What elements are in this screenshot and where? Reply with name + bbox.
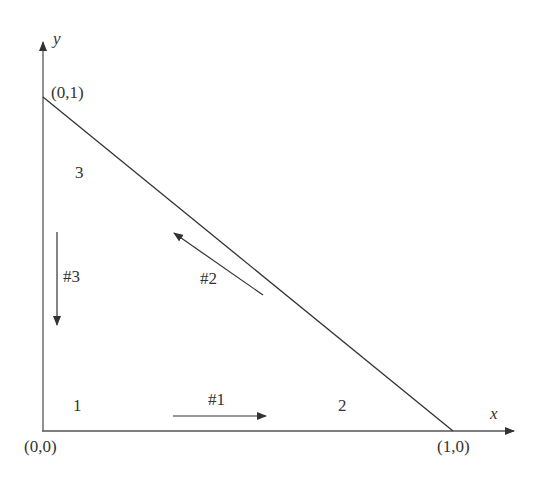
vertex-1-coord-label: (0,0) — [24, 438, 57, 455]
vertex-3-coord-label: (0,1) — [51, 84, 84, 101]
edge-2-arrow — [174, 233, 263, 295]
edge-2-label: #2 — [200, 270, 217, 287]
hypotenuse-edge — [43, 97, 453, 431]
x-axis-label: x — [490, 405, 498, 422]
y-axis-label: y — [53, 30, 61, 47]
node-1-label: 1 — [73, 397, 82, 414]
node-2-label: 2 — [338, 397, 347, 414]
vertex-2-coord-label: (1,0) — [437, 438, 470, 455]
node-3-label: 3 — [75, 164, 84, 181]
triangle-diagram — [0, 0, 536, 491]
edge-3-label: #3 — [63, 268, 80, 285]
edge-1-label: #1 — [208, 391, 225, 408]
